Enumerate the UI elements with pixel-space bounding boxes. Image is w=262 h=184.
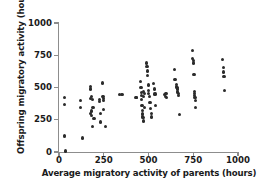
data-point	[81, 136, 84, 139]
data-point	[194, 106, 197, 109]
data-point	[222, 75, 225, 78]
x-tick-label: 1000	[221, 156, 255, 165]
data-point	[149, 107, 152, 110]
y-tick-mark	[54, 22, 58, 23]
data-point	[147, 83, 150, 86]
plot-area	[59, 23, 238, 152]
y-tick-mark	[54, 87, 58, 88]
data-point	[164, 92, 167, 95]
data-point	[92, 117, 95, 120]
data-point	[153, 92, 156, 95]
data-point	[91, 125, 94, 128]
y-tick-label: 750	[18, 51, 52, 60]
data-point	[221, 58, 224, 61]
data-point	[145, 65, 148, 68]
data-point	[139, 86, 142, 89]
data-point	[148, 95, 151, 98]
data-point	[89, 87, 92, 90]
data-point	[142, 119, 145, 122]
data-point	[90, 109, 93, 112]
data-point	[194, 99, 197, 102]
y-tick-mark	[54, 55, 58, 56]
data-point	[146, 69, 149, 72]
data-point	[153, 87, 156, 90]
data-point	[98, 100, 101, 103]
data-point	[91, 106, 94, 109]
y-tick-label: 1000	[18, 19, 52, 28]
data-point	[223, 89, 226, 92]
data-point	[191, 49, 194, 52]
data-point	[165, 96, 168, 99]
data-point	[102, 99, 105, 102]
data-point	[148, 101, 151, 104]
data-point	[143, 92, 146, 95]
x-axis-label: Average migratory activity of parents (h…	[40, 168, 258, 178]
data-point	[222, 70, 225, 73]
data-point	[154, 104, 157, 107]
data-point	[101, 81, 104, 84]
data-point	[104, 125, 107, 128]
data-point	[173, 68, 176, 71]
data-point	[143, 106, 146, 109]
y-tick-mark	[54, 151, 58, 152]
data-point	[222, 66, 225, 69]
data-point	[91, 98, 94, 101]
x-tick-label: 0	[42, 156, 76, 165]
data-point	[135, 96, 138, 99]
x-tick-label: 750	[176, 156, 210, 165]
x-tick-label: 250	[87, 156, 121, 165]
data-point	[173, 78, 176, 81]
data-point	[152, 82, 155, 85]
scatter-plot-figure: Offspring migratory activity (hours) Ave…	[0, 0, 262, 184]
data-point	[63, 135, 66, 138]
data-point	[178, 113, 181, 116]
data-point	[192, 73, 195, 76]
y-tick-mark	[54, 119, 58, 120]
data-point	[102, 108, 105, 111]
data-point	[139, 80, 142, 83]
data-point	[63, 96, 66, 99]
data-point	[177, 94, 180, 97]
data-point	[142, 95, 145, 98]
y-tick-label: 500	[18, 83, 52, 92]
data-point	[99, 120, 102, 123]
data-point	[120, 93, 123, 96]
data-point	[79, 106, 82, 109]
data-point	[150, 115, 153, 118]
data-point	[63, 103, 66, 106]
data-point	[140, 98, 143, 101]
data-point	[79, 99, 82, 102]
x-tick-label: 500	[132, 156, 166, 165]
data-point	[146, 74, 149, 77]
y-tick-label: 250	[18, 115, 52, 124]
data-point	[192, 61, 195, 64]
data-point	[99, 112, 102, 115]
